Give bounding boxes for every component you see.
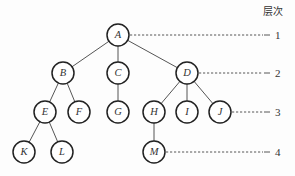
node-e-label: E xyxy=(34,101,56,123)
level-label-2: 2 xyxy=(275,67,281,79)
level-label-3: 3 xyxy=(275,106,281,118)
node-l-label: L xyxy=(51,141,73,163)
edges xyxy=(24,35,220,152)
tree-diagram: 层次 ABCDEFGHIJKLM 1234 xyxy=(0,0,295,176)
node-k-label: K xyxy=(13,141,35,163)
node-h-label: H xyxy=(143,101,165,123)
level-guides xyxy=(130,35,270,152)
node-b-label: B xyxy=(52,62,74,84)
node-m-label: M xyxy=(143,141,165,163)
node-c-label: C xyxy=(107,62,129,84)
level-header: 层次 xyxy=(263,6,283,18)
node-a-label: A xyxy=(107,24,129,46)
node-j-label: J xyxy=(209,101,231,123)
level-label-1: 1 xyxy=(275,29,281,41)
node-d-label: D xyxy=(176,62,198,84)
node-f-label: F xyxy=(68,101,90,123)
node-g-label: G xyxy=(107,101,129,123)
level-label-4: 4 xyxy=(275,146,281,158)
node-i-label: I xyxy=(176,101,198,123)
